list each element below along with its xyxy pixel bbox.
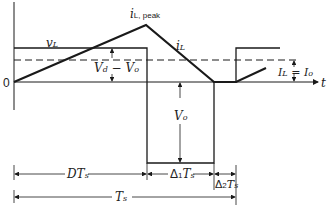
vl-label: vL (46, 37, 58, 49)
dts-label: DTs (67, 168, 89, 180)
average-current-label: IL = Io (278, 67, 313, 78)
il-label: iL (176, 40, 185, 52)
waveform-graphic (0, 0, 332, 211)
time-axis-label: t (321, 77, 326, 89)
delta2-ts-label: Δ2Ts (215, 179, 238, 190)
dcm-waveform-diagram: 0 t vL iL, peak iL Vd − Vo Vo IL = Io DT… (0, 0, 332, 211)
ts-label: Ts (115, 191, 127, 203)
delta1-ts-label: Δ1Ts (170, 168, 195, 180)
vo-label: Vo (174, 110, 188, 122)
inductor-current-waveform (14, 25, 266, 82)
il-peak-label: iL, peak (130, 8, 160, 20)
vd-minus-vo-label: Vd − Vo (94, 62, 139, 74)
origin-label: 0 (3, 77, 10, 89)
